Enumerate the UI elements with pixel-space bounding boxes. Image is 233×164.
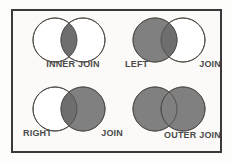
label-text: OUTER JOIN <box>164 130 221 140</box>
panel-inner-join <box>27 15 119 81</box>
panel-right-join <box>27 83 123 151</box>
label-right-join: RIGHT JOIN <box>23 128 123 138</box>
venn-left-join <box>125 15 221 65</box>
panel-outer-join <box>125 83 221 151</box>
label-text: INNER JOIN <box>46 59 100 69</box>
label-inner-join: INNER JOIN <box>27 59 119 69</box>
panel-left-join <box>125 15 221 81</box>
label-left-join: LEFT JOIN <box>125 59 221 69</box>
label-text-left: LEFT <box>125 59 148 69</box>
label-text-right: RIGHT <box>23 128 52 138</box>
label-text-join: JOIN <box>199 59 221 69</box>
venn-outer-join <box>125 83 221 135</box>
diagram-page: INNER JOIN LEFT JOIN <box>0 0 233 164</box>
label-outer-join: OUTER JOIN <box>125 130 221 140</box>
venn-inner-join <box>27 15 119 65</box>
label-text-join: JOIN <box>101 128 123 138</box>
diagram-frame: INNER JOIN LEFT JOIN <box>11 9 222 153</box>
